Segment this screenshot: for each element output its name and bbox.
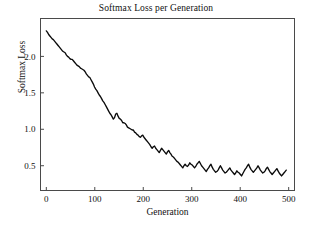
y-tick-label: 0.5 <box>24 161 36 171</box>
loss-curve <box>46 31 286 176</box>
plot-frame <box>41 19 295 191</box>
x-tick-label: 300 <box>185 194 199 204</box>
y-tick-group: 0.51.01.52.0 <box>24 52 44 171</box>
x-tick-label: 400 <box>233 194 247 204</box>
x-tick-label: 100 <box>88 194 102 204</box>
x-tick-group: 0100200300400500 <box>44 187 296 204</box>
x-tick-label: 0 <box>44 194 49 204</box>
y-tick-label: 2.0 <box>24 52 36 62</box>
chart-figure: Softmax Loss per Generation Softmax Loss… <box>0 0 312 229</box>
y-tick-label: 1.5 <box>24 88 36 98</box>
plot-area: 0.51.01.52.0 0100200300400500 <box>0 0 312 229</box>
y-tick-label: 1.0 <box>24 124 36 134</box>
x-tick-label: 200 <box>137 194 151 204</box>
x-tick-label: 500 <box>282 194 296 204</box>
